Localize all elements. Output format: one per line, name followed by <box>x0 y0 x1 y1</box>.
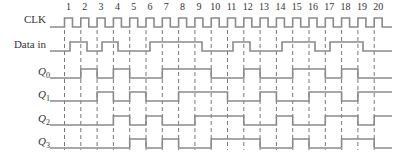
pulse-number: 11 <box>227 1 237 12</box>
q1-waveform <box>50 92 392 101</box>
label-q3: Q3 <box>38 135 50 150</box>
label-q0: Q0 <box>38 65 50 80</box>
signal-labels: CLK Data in Q0 Q1 Q2 Q3 <box>14 13 50 150</box>
pulse-number: 14 <box>275 1 285 12</box>
clk-waveform <box>50 18 392 27</box>
pulse-number: 4 <box>115 1 120 12</box>
pulse-number: 5 <box>131 1 136 12</box>
q0-waveform <box>50 69 392 78</box>
pulse-number: 20 <box>373 1 383 12</box>
pulse-number: 9 <box>196 1 201 12</box>
pulse-number: 8 <box>180 1 185 12</box>
pulse-number: 12 <box>243 1 253 12</box>
pulse-number: 10 <box>210 1 220 12</box>
pulse-number: 7 <box>164 1 169 12</box>
q3-waveform <box>50 139 392 148</box>
pulse-number: 13 <box>259 1 269 12</box>
pulse-number: 2 <box>82 1 87 12</box>
label-data-in: Data in <box>14 38 47 50</box>
clock-edge-guides <box>65 30 375 150</box>
clock-pulse-numbers: 1234567891011121314151617181920 <box>66 1 383 12</box>
timing-diagram: 1234567891011121314151617181920 CLK Data… <box>0 0 414 162</box>
pulse-number: 16 <box>308 1 318 12</box>
pulse-number: 18 <box>341 1 351 12</box>
waveforms <box>50 18 392 148</box>
pulse-number: 3 <box>99 1 104 12</box>
pulse-number: 15 <box>292 1 302 12</box>
label-q1: Q1 <box>38 88 50 103</box>
label-q2: Q2 <box>38 112 50 127</box>
pulse-number: 6 <box>148 1 153 12</box>
data-in-waveform <box>50 42 392 51</box>
pulse-number: 1 <box>66 1 71 12</box>
label-clk: CLK <box>24 13 46 25</box>
pulse-number: 17 <box>324 1 334 12</box>
pulse-number: 19 <box>357 1 367 12</box>
q2-waveform <box>50 116 392 125</box>
